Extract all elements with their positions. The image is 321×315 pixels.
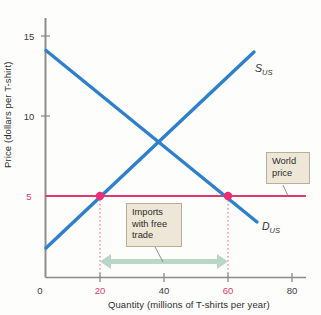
imports-callout: Imports with free trade — [126, 203, 182, 247]
demand-curve-label: DUS — [262, 220, 280, 235]
supply-demand-chart: Price (dollars per T-shirt) Quantity (mi… — [0, 0, 321, 315]
leader-world-price — [283, 185, 288, 196]
x-axis-title: Quantity (millions of T-shirts per year) — [108, 299, 270, 310]
x-tick-label-80: 80 — [283, 285, 301, 296]
y-axis-title: Price (dollars per T-shirt) — [2, 61, 13, 168]
x-tick-label-0: 0 — [31, 285, 49, 296]
imports-arrow — [100, 254, 228, 269]
supply-curve-label-text: S — [255, 62, 262, 74]
y-tick-label-5: 5 — [20, 191, 38, 202]
y-tick-label-10: 10 — [20, 111, 38, 122]
demand-curve-label-text: D — [262, 220, 270, 232]
marker-q60 — [224, 192, 232, 200]
supply-curve-label: SUS — [255, 62, 272, 77]
marker-q20 — [96, 192, 104, 200]
supply-curve-label-sub: US — [262, 68, 272, 77]
x-tick-label-40: 40 — [155, 285, 173, 296]
x-tick-label-20: 20 — [91, 285, 109, 296]
demand-curve-label-sub: US — [270, 226, 280, 235]
y-tick-label-15: 15 — [20, 31, 38, 42]
world-price-callout: World price — [266, 152, 310, 184]
x-tick-label-60: 60 — [219, 285, 237, 296]
